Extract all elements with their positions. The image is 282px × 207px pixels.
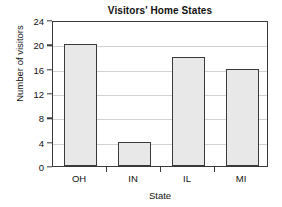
bar-in	[118, 142, 151, 166]
x-axis-tick-mark	[106, 167, 107, 172]
bar-il	[172, 57, 205, 167]
plot-area	[52, 21, 268, 167]
bar-chart-figure: Visitors' Home States Number of visitors…	[0, 0, 282, 207]
bar-oh	[64, 44, 97, 166]
x-axis-label: State	[52, 190, 268, 201]
x-axis-tick-label: IL	[183, 173, 191, 184]
x-axis-tick-label: MI	[236, 173, 247, 184]
x-axis-tick-mark	[214, 167, 215, 172]
x-axis-tick-label: OH	[72, 173, 86, 184]
x-axis-tick-labels: OHINILMI	[52, 173, 268, 187]
chart-title: Visitors' Home States	[52, 5, 268, 16]
x-axis-tick-label: IN	[128, 173, 138, 184]
bar-mi	[226, 69, 259, 166]
y-axis-tick-marks	[0, 21, 52, 167]
x-axis-tick-mark	[160, 167, 161, 172]
